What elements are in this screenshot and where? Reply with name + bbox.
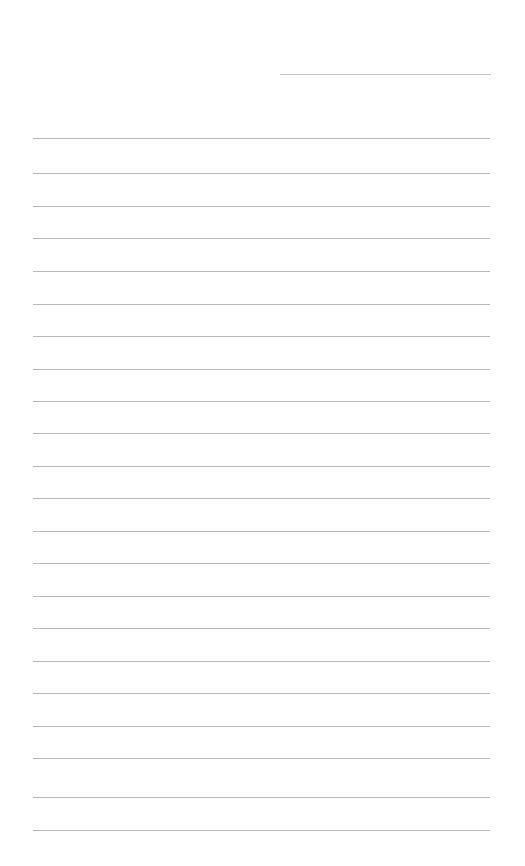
ruled-line [33,563,490,564]
ruled-line [33,531,490,532]
ruled-line [33,206,490,207]
ruled-line [33,661,490,662]
ruled-line [33,336,490,337]
ruled-line [33,498,490,499]
ruled-line [33,797,490,798]
ruled-line [33,758,490,759]
lined-paper-page [0,0,525,866]
ruled-line [33,693,490,694]
ruled-line [33,304,490,305]
ruled-line [33,466,490,467]
ruled-line [33,628,490,629]
ruled-line [33,138,490,139]
header-line [280,74,491,75]
ruled-line [33,596,490,597]
ruled-line [33,271,490,272]
ruled-line [33,726,490,727]
ruled-line [33,401,490,402]
ruled-line [33,369,490,370]
ruled-line [33,238,490,239]
ruled-line [33,830,490,831]
ruled-line [33,173,490,174]
ruled-line [33,433,490,434]
